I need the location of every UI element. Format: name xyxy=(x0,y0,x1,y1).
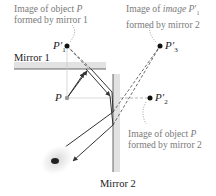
image-label-p2: P′2 xyxy=(155,91,168,106)
annotation-image1: Image of object P formed by mirror 1 xyxy=(14,3,88,25)
image-point-p3 xyxy=(158,44,163,49)
object-label-p: P xyxy=(55,91,62,103)
light-rays xyxy=(61,69,113,161)
eye-icon xyxy=(36,140,79,181)
mirror-1-label: Mirror 1 xyxy=(14,52,50,63)
object-point-p xyxy=(65,96,69,100)
image-label-p3: P′3 xyxy=(165,39,178,54)
annotation-image3: Image of image P′1 formed by mirror 2 xyxy=(126,3,200,30)
image-label-p1: P′1 xyxy=(53,39,66,54)
mirror-2-label: Mirror 2 xyxy=(100,178,136,189)
annotation-image2: Image of object P formed by mirror 2 xyxy=(128,128,202,150)
guide-lines xyxy=(67,46,150,98)
image-point-p2 xyxy=(148,96,153,101)
mirror-1 xyxy=(14,62,106,69)
